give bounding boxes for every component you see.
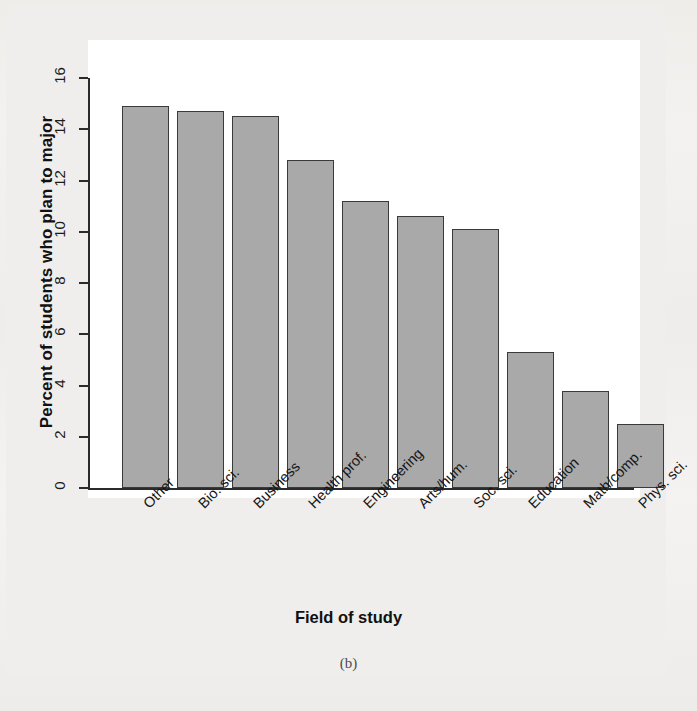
y-axis-title: Percent of students who plan to major	[37, 107, 57, 437]
y-axis-tick	[79, 436, 88, 438]
y-axis-tick	[79, 487, 88, 489]
y-axis-tick-label: 0	[46, 477, 72, 494]
y-axis-tick	[79, 77, 88, 79]
y-axis-tick	[79, 385, 88, 387]
bar	[342, 201, 389, 488]
panel-label: (b)	[0, 655, 697, 672]
x-axis-title: Field of study	[0, 608, 697, 627]
y-axis-tick	[79, 282, 88, 284]
y-axis-line	[88, 78, 90, 490]
y-axis-tick-label: 16	[46, 67, 72, 84]
bar	[122, 106, 169, 488]
y-axis-tick	[79, 128, 88, 130]
bar	[177, 111, 224, 488]
bar	[232, 116, 279, 488]
bar	[397, 216, 444, 488]
y-axis-tick	[79, 180, 88, 182]
y-axis-tick	[79, 231, 88, 233]
bar	[287, 160, 334, 488]
bar	[452, 229, 499, 488]
y-axis-tick	[79, 333, 88, 335]
